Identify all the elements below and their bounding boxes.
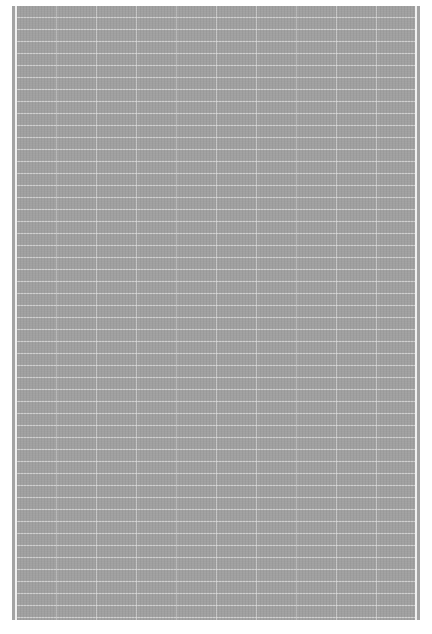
- illegible-text-texture: [17, 6, 415, 620]
- document-page: [12, 6, 420, 620]
- right-border-line: [415, 6, 417, 620]
- table-grid: [17, 6, 415, 620]
